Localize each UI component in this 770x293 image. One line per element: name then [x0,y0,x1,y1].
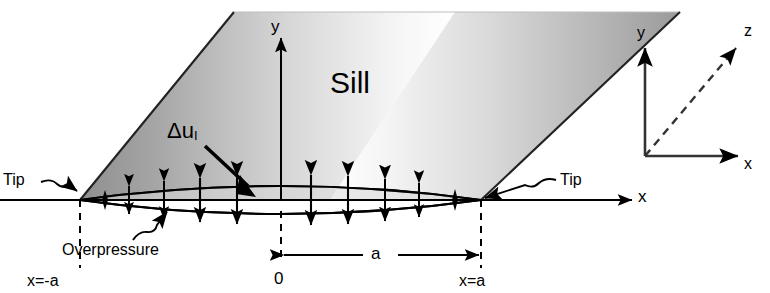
tip-left-label: Tip [3,172,25,188]
triad-x-label: x [744,156,752,172]
opening-displacement-label: ΔuI [167,120,198,142]
triad-z-axis [645,48,736,156]
triad-z-label: z [744,23,752,39]
tip-right-label: Tip [560,172,582,188]
coordinate-triad [645,48,738,156]
triad-y-label: y [637,25,645,41]
sill-body [80,12,680,200]
figure-canvas: Sill y x ΔuI Tip Tip Overpressure x=-a 0… [0,0,770,293]
tip-left-leader [41,180,77,191]
overpressure-label: Overpressure [62,242,159,258]
sill-label: Sill [330,68,370,98]
x-axis-label: x [638,188,647,205]
x-equals-a-label: x=a [459,273,485,289]
opening-displacement-subscript: I [194,128,198,143]
x-minus-a-label: x=-a [27,273,59,289]
half-length-label: a [371,245,380,262]
origin-label: 0 [274,270,283,287]
y-axis-label: y [271,18,280,35]
opening-displacement-symbol: Δu [167,118,194,143]
